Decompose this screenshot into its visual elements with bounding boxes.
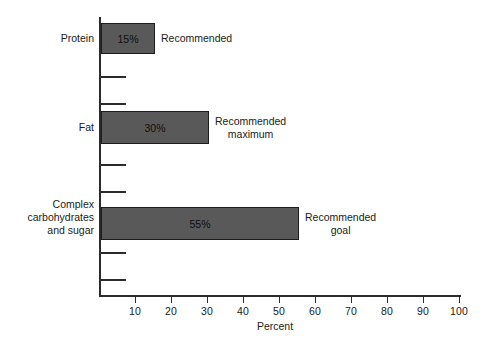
x-axis-tick — [171, 297, 172, 303]
y-axis-line — [99, 17, 101, 297]
x-axis-tick-label: 10 — [115, 305, 155, 317]
category-label-complex-carbohydrates: Complex carbohydrates and sugar — [5, 198, 94, 237]
x-axis-tick — [459, 297, 460, 303]
y-axis-tick — [101, 252, 126, 254]
x-axis-tick-label: 70 — [331, 305, 371, 317]
x-axis-tick — [207, 297, 208, 303]
annotation-recommended-goal: Recommended goal — [305, 211, 376, 237]
bar-value-label-fat: 30% — [145, 122, 166, 134]
x-axis-line — [99, 295, 461, 297]
annotation-recommended-maximum: Recommended maximum — [215, 115, 286, 141]
bar-chart: 15% 30% 55% Protein Fat Complex carbohyd… — [0, 0, 493, 349]
x-axis-tick — [423, 297, 424, 303]
x-axis-tick — [351, 297, 352, 303]
x-axis-title: Percent — [225, 320, 325, 332]
category-label-protein: Protein — [5, 32, 94, 45]
y-axis-tick — [101, 279, 126, 281]
x-axis-tick — [243, 297, 244, 303]
x-axis-tick — [387, 297, 388, 303]
category-label-fat: Fat — [5, 121, 94, 134]
annotation-recommended: Recommended — [161, 32, 232, 45]
x-axis-tick — [315, 297, 316, 303]
y-axis-tick — [101, 191, 126, 193]
x-axis-tick-label: 20 — [151, 305, 191, 317]
x-axis-tick — [279, 297, 280, 303]
x-axis-tick-label: 60 — [295, 305, 335, 317]
x-axis-tick-label: 100 — [439, 305, 479, 317]
bar-value-label-complex-carbohydrates: 55% — [190, 218, 211, 230]
x-axis-tick-label: 80 — [367, 305, 407, 317]
y-axis-tick — [101, 76, 126, 78]
x-axis-tick-label: 40 — [223, 305, 263, 317]
bar-value-label-protein: 15% — [118, 33, 139, 45]
x-axis-tick-label: 50 — [259, 305, 299, 317]
y-axis-tick — [101, 103, 126, 105]
x-axis-tick-label: 90 — [403, 305, 443, 317]
x-axis-tick-label: 30 — [187, 305, 227, 317]
x-axis-tick — [135, 297, 136, 303]
y-axis-tick — [101, 164, 126, 166]
